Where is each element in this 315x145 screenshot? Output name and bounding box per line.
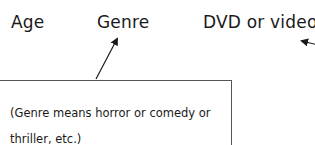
dvd-arrow-icon: [302, 41, 315, 46]
note-text: (Genre means horror or comedy or thrille…: [10, 100, 232, 145]
genre-arrow-icon: [96, 39, 117, 79]
